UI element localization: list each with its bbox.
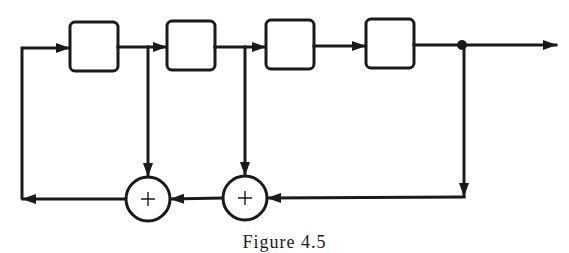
register-stage-3	[266, 20, 314, 69]
output-tap-return	[268, 197, 464, 198]
register-stage-2	[167, 21, 215, 70]
register-stage-1	[70, 22, 118, 71]
figure-caption: Figure 4.5	[0, 232, 569, 253]
junction-dot	[457, 40, 467, 50]
adder-2-to-1-line	[171, 198, 223, 199]
feedback-input-line	[22, 48, 69, 198]
register-stage-4	[366, 19, 414, 68]
